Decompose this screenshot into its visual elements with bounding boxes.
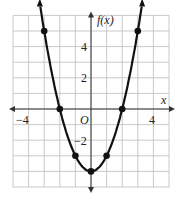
data-point <box>41 28 48 35</box>
data-point <box>103 153 110 160</box>
data-point <box>135 28 142 35</box>
data-point <box>57 106 64 113</box>
y-tick-2: 2 <box>81 71 87 85</box>
axes <box>9 11 175 193</box>
x-tick-neg4: −4 <box>16 113 29 127</box>
data-point <box>88 168 95 175</box>
x-axis-label: x <box>160 93 167 107</box>
data-point <box>119 106 126 113</box>
y-tick-4: 4 <box>81 40 87 54</box>
origin-label: O <box>80 113 89 127</box>
x-tick-4: 4 <box>149 113 155 127</box>
y-axis-label: f(x) <box>97 13 114 27</box>
parabola-graph: f(x) x O −4 4 4 2 −2 <box>0 0 179 203</box>
y-tick-neg2: −2 <box>74 134 87 148</box>
data-point <box>72 153 79 160</box>
